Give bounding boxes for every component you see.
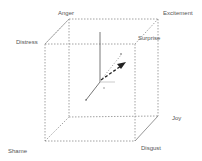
label-shame: Shame bbox=[8, 148, 27, 154]
cube-edge-bottom-right bbox=[135, 116, 158, 141]
axis-depth-end-dot bbox=[85, 99, 87, 101]
label-disgust: Disgust bbox=[141, 145, 161, 151]
axis-depth bbox=[86, 82, 100, 100]
emotion-cube-diagram bbox=[0, 0, 202, 161]
cube-edge-bottom-left bbox=[45, 117, 69, 141]
label-excitement: Excitement bbox=[163, 10, 193, 16]
label-joy: Joy bbox=[172, 115, 181, 121]
label-anger: Anger bbox=[58, 10, 74, 16]
cube-edge-top-left-solid bbox=[45, 19, 69, 44]
dotted-line-end-dot bbox=[120, 53, 122, 55]
cube-edge-back-bottom bbox=[69, 116, 158, 117]
small-marker-dot bbox=[103, 87, 104, 88]
axes bbox=[86, 32, 115, 100]
label-surprise: Surprise bbox=[138, 35, 160, 41]
label-distress: Distress bbox=[16, 39, 38, 45]
